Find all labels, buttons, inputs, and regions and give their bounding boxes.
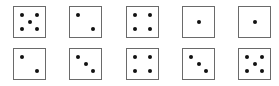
die-face-2 [69, 6, 102, 38]
pip-dot [245, 55, 249, 59]
pip-dot [20, 55, 24, 59]
pip-dot [35, 69, 39, 73]
pip-dot [197, 62, 201, 66]
pip-dot [148, 69, 152, 73]
pip-dot [133, 55, 137, 59]
pip-dot [197, 20, 201, 24]
die-face-3 [69, 48, 102, 80]
pip-dot [35, 13, 39, 17]
die-face-2 [13, 48, 46, 80]
pip-dot [260, 55, 264, 59]
pip-dot [20, 13, 24, 17]
pip-dot [133, 27, 137, 31]
die-face-5 [238, 48, 271, 80]
pip-dot [148, 55, 152, 59]
pip-dot [133, 69, 137, 73]
pip-dot [148, 27, 152, 31]
pip-dot [204, 69, 208, 73]
pip-dot [84, 62, 88, 66]
die-face-3 [182, 48, 215, 80]
die-face-5 [13, 6, 46, 38]
pip-dot [28, 20, 32, 24]
die-face-4 [126, 6, 159, 38]
pip-dot [253, 62, 257, 66]
pip-dot [76, 13, 80, 17]
die-face-4 [126, 48, 159, 80]
die-face-1 [182, 6, 215, 38]
pip-dot [91, 27, 95, 31]
pip-dot [245, 69, 249, 73]
pip-dot [260, 69, 264, 73]
pip-dot [253, 20, 257, 24]
pip-dot [133, 13, 137, 17]
pip-dot [20, 27, 24, 31]
die-face-1 [238, 6, 271, 38]
pip-dot [35, 27, 39, 31]
pip-dot [148, 13, 152, 17]
pip-dot [91, 69, 95, 73]
pip-dot [189, 55, 193, 59]
pip-dot [76, 55, 80, 59]
